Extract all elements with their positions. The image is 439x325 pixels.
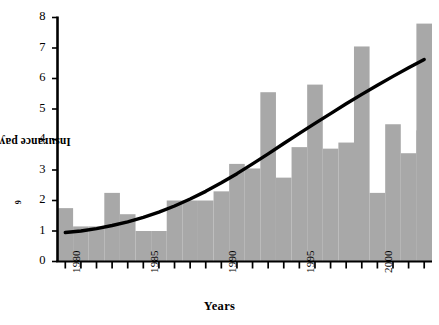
x-tick-label: 2000 [382, 250, 394, 273]
y-tick-label: 0 [28, 253, 46, 268]
y-tick-label: 4 [28, 131, 46, 146]
x-tick-label: 1985 [148, 250, 160, 273]
y-tick-label: 5 [28, 101, 46, 116]
bar [354, 46, 370, 261]
bar [89, 226, 105, 261]
y-tick-label: 7 [28, 40, 46, 55]
bar [260, 92, 276, 261]
bar [385, 124, 401, 261]
y-tick-label: 1 [28, 223, 46, 238]
bar [182, 201, 198, 262]
bar [401, 153, 417, 261]
bar [323, 149, 339, 262]
bar [338, 143, 354, 262]
y-tick-label: 8 [28, 9, 46, 24]
x-tick-label: 1990 [226, 250, 238, 273]
x-axis-title: Years [0, 299, 439, 314]
bar [198, 201, 214, 262]
bar [276, 178, 292, 262]
bar [245, 168, 261, 261]
y-tick-label: 6 [28, 70, 46, 85]
chart-canvas [0, 0, 439, 325]
chart-figure: Insurance payments, $109 Years 012345678… [0, 0, 439, 325]
y-tick-label: 3 [28, 162, 46, 177]
x-tick-label: 1980 [70, 250, 82, 273]
y-tick-label: 2 [28, 192, 46, 207]
bar [307, 85, 323, 262]
bar [292, 147, 308, 261]
x-tick-label: 1995 [304, 250, 316, 273]
